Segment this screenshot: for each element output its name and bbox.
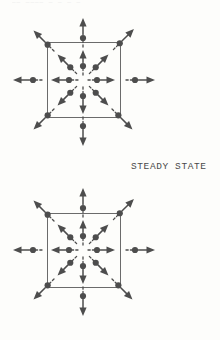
particle-vector (79, 257, 86, 284)
particle-vector (88, 246, 115, 253)
arrowhead-icon (79, 18, 86, 27)
particle-vector (112, 109, 133, 130)
particle-dot (80, 205, 86, 211)
arrowhead-icon (107, 76, 116, 83)
particle-dot (66, 77, 72, 83)
particle-dot (80, 263, 86, 269)
particle-dot (45, 42, 51, 48)
particle-tail (72, 86, 76, 90)
particle-vector (13, 246, 42, 253)
particle-vector (79, 50, 86, 75)
particle-tail (72, 256, 76, 260)
particle-dot (67, 260, 73, 266)
particle-vector (13, 76, 42, 83)
particle-dot (115, 282, 121, 288)
arrowhead-icon (79, 308, 86, 317)
particle-dot (93, 260, 99, 266)
flux-panel-canvas (0, 8, 220, 158)
particle-dot (132, 77, 138, 83)
particle-vector (79, 188, 86, 217)
particle-dot (45, 212, 51, 218)
particle-vector (89, 86, 108, 105)
arrowhead-icon (79, 106, 86, 115)
particle-flux-diagram-upper (0, 8, 220, 158)
particle-dot (80, 293, 86, 299)
particle-dot (80, 63, 86, 69)
particle-vector (51, 76, 78, 83)
arrowhead-icon (13, 246, 22, 253)
flux-panel-canvas (0, 170, 220, 340)
particle-tail (89, 86, 93, 90)
particle-tail (72, 239, 76, 243)
particle-vector (126, 246, 155, 253)
particle-dot (93, 64, 99, 70)
particle-tail (50, 109, 54, 113)
particle-vector (126, 76, 155, 83)
arrowhead-icon (79, 220, 86, 229)
particle-dot (94, 247, 100, 253)
arrowhead-icon (51, 76, 60, 83)
particle-dot (67, 64, 73, 70)
particle-vector (89, 256, 108, 275)
particle-vector (113, 199, 134, 220)
particle-vector (88, 76, 115, 83)
particle-dot (80, 93, 86, 99)
particle-vector (34, 279, 55, 300)
particle-dot (45, 112, 51, 118)
particle-dot (67, 234, 73, 240)
particle-tail (89, 239, 93, 243)
particle-dot (93, 234, 99, 240)
particle-vector (34, 201, 55, 222)
particle-vector (79, 220, 86, 245)
arrowhead-icon (13, 76, 22, 83)
particle-dot (115, 112, 121, 118)
particle-vector (58, 55, 77, 74)
particle-dot (30, 247, 36, 253)
particle-vector (34, 31, 55, 52)
particle-flux-diagram-lower (0, 170, 220, 340)
particle-dot (80, 123, 86, 129)
figure-page: —— ———— — — — — STEADY STATE (0, 0, 220, 340)
particle-vector (51, 246, 78, 253)
particle-vector (58, 225, 77, 244)
arrowhead-icon (107, 246, 116, 253)
particle-vector (58, 256, 77, 275)
arrowhead-icon (79, 276, 86, 285)
arrowhead-icon (51, 246, 60, 253)
particle-tail (113, 215, 117, 219)
particle-tail (89, 69, 93, 73)
particle-vector (112, 279, 133, 300)
particle-dot (94, 77, 100, 83)
cropped-header-text: —— ———— — — — — (12, 0, 84, 5)
particle-dot (117, 210, 123, 216)
particle-vector (58, 86, 77, 105)
particle-vector (79, 87, 86, 114)
particle-dot (80, 35, 86, 41)
particle-dot (45, 282, 51, 288)
particle-vector (89, 225, 108, 244)
particle-tail (112, 109, 116, 113)
particle-vector (89, 55, 108, 74)
particle-vector (34, 109, 55, 130)
particle-dot (117, 40, 123, 46)
particle-dot (66, 247, 72, 253)
particle-dot (132, 247, 138, 253)
particle-tail (113, 45, 117, 49)
arrowhead-icon (147, 76, 156, 83)
particle-tail (50, 279, 54, 283)
arrowhead-icon (79, 188, 86, 197)
particle-tail (50, 47, 54, 51)
particle-tail (89, 256, 93, 260)
particle-vector (79, 117, 86, 146)
particle-dot (30, 77, 36, 83)
particle-tail (72, 69, 76, 73)
arrowhead-icon (79, 50, 86, 59)
arrowhead-icon (79, 138, 86, 147)
particle-vector (113, 29, 134, 50)
particle-tail (50, 217, 54, 221)
particle-tail (112, 279, 116, 283)
particle-dot (93, 90, 99, 96)
arrowhead-icon (147, 246, 156, 253)
particle-dot (80, 233, 86, 239)
particle-vector (79, 287, 86, 316)
